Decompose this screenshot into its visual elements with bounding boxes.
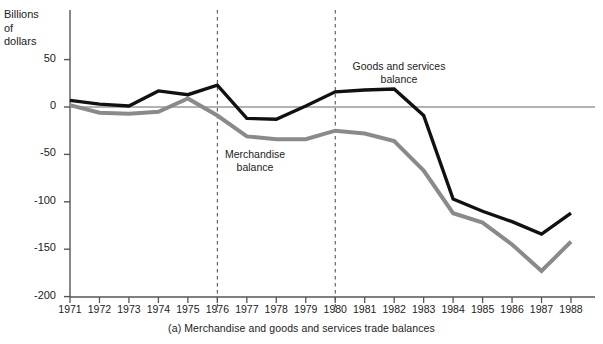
figure-caption-text: (a) Merchandise and goods and services t… <box>168 322 435 334</box>
y-tick-label-50: 50 <box>12 52 56 64</box>
series-label-merchandise: Merchandise balance <box>200 148 310 174</box>
x-tick-label-1988: 1988 <box>551 303 591 315</box>
chart-container: Billions of dollars Goods and services b… <box>0 0 603 344</box>
y-tick-label--200: -200 <box>12 289 56 301</box>
y-tick-label--50: -50 <box>12 146 56 158</box>
y-tick-label--150: -150 <box>12 241 56 253</box>
y-tick-label-0: 0 <box>12 99 56 111</box>
figure-caption: (a) Merchandise and goods and services t… <box>0 322 603 334</box>
series-line-goods-and-services-balance <box>70 85 571 234</box>
series-line-merchandise-balance <box>70 98 571 271</box>
y-tick-label--100: -100 <box>12 194 56 206</box>
series-label-goods-and-services: Goods and services balance <box>334 60 464 86</box>
